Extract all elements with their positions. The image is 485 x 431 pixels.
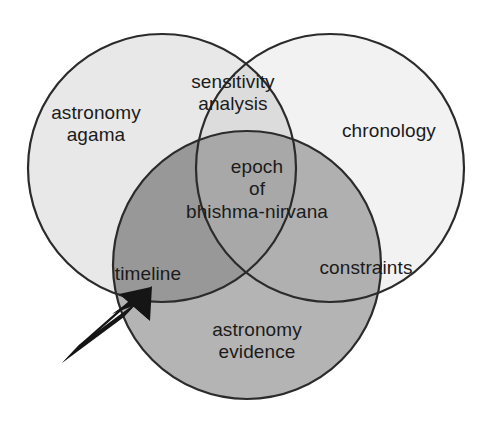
venn-diagram: astronomy agama sensitivity analysis chr… [0,0,485,431]
venn-canvas [0,0,485,431]
